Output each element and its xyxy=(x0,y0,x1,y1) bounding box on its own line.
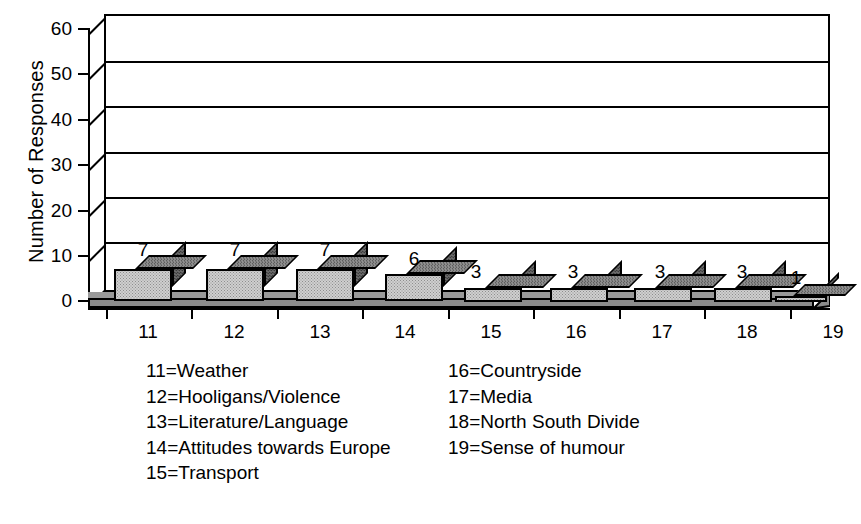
bar-18[interactable] xyxy=(714,288,772,302)
gridline-40 xyxy=(106,106,828,108)
x-tick-label-11: 11 xyxy=(118,322,178,342)
bar-value-13: 7 xyxy=(295,240,355,259)
plot-floor-front xyxy=(88,298,814,308)
x-tick-label-16: 16 xyxy=(546,322,606,342)
bar-front xyxy=(464,288,522,302)
y-tick-label-30: 30 xyxy=(20,155,72,174)
bar-17[interactable] xyxy=(634,288,692,302)
gridline-50 xyxy=(106,61,828,63)
y-tick-label-60: 60 xyxy=(20,19,72,38)
legend-item-16: 16=Countryside xyxy=(448,358,640,384)
x-tick-7 xyxy=(704,308,706,319)
axis-diagonal-30 xyxy=(88,154,105,171)
bar-value-16: 3 xyxy=(543,262,603,281)
bar-11[interactable] xyxy=(114,269,172,301)
y-tick-20 xyxy=(78,210,90,212)
legend-item-14: 14=Attitudes towards Europe xyxy=(146,435,391,461)
bar-19[interactable] xyxy=(775,296,827,302)
x-tick-label-14: 14 xyxy=(375,322,435,342)
y-tick-label-40: 40 xyxy=(20,110,72,129)
x-tick-4 xyxy=(448,308,450,319)
y-tick-label-50: 50 xyxy=(20,64,72,83)
y-tick-60 xyxy=(78,28,90,30)
y-tick-10 xyxy=(78,255,90,257)
bar-front xyxy=(714,288,772,302)
x-tick-8 xyxy=(790,308,792,319)
bar-value-11: 7 xyxy=(113,240,173,259)
x-tick-0 xyxy=(106,308,108,319)
bar-16[interactable] xyxy=(550,288,608,302)
bar-12[interactable] xyxy=(206,269,264,301)
bar-value-17: 3 xyxy=(630,262,690,281)
bar-value-12: 7 xyxy=(205,240,265,259)
x-tick-label-18: 18 xyxy=(717,322,777,342)
bar-front xyxy=(296,269,354,301)
axis-diagonal-20 xyxy=(88,200,105,217)
gridline-30 xyxy=(106,152,828,154)
x-tick-1 xyxy=(191,308,193,319)
legend: 11=Weather 12=Hooligans/Violence 13=Lite… xyxy=(0,358,845,524)
x-tick-6 xyxy=(619,308,621,319)
bar-front xyxy=(385,274,443,301)
bar-front xyxy=(550,288,608,302)
x-tick-label-12: 12 xyxy=(204,322,264,342)
bar-value-18: 3 xyxy=(712,262,772,281)
axis-diagonal-10 xyxy=(88,245,105,262)
bar-13[interactable] xyxy=(296,269,354,301)
x-tick-label-17: 17 xyxy=(632,322,692,342)
bar-value-19: 1 xyxy=(766,268,826,287)
axis-diagonal-60 xyxy=(88,18,105,35)
legend-column-right: 16=Countryside 17=Media 18=North South D… xyxy=(448,358,640,460)
legend-item-17: 17=Media xyxy=(448,384,640,410)
bar-front xyxy=(206,269,264,301)
axis-diagonal-40 xyxy=(88,109,105,126)
x-axis-line xyxy=(88,308,830,310)
gridline-20 xyxy=(106,197,828,199)
bar-front xyxy=(114,269,172,301)
y-tick-30 xyxy=(78,164,90,166)
legend-item-18: 18=North South Divide xyxy=(448,409,640,435)
legend-item-11: 11=Weather xyxy=(146,358,391,384)
bar-front xyxy=(775,296,827,302)
bar-front xyxy=(634,288,692,302)
x-tick-label-13: 13 xyxy=(290,322,350,342)
y-tick-50 xyxy=(78,73,90,75)
bar-15[interactable] xyxy=(464,288,522,302)
bar-value-14: 6 xyxy=(384,249,444,268)
legend-item-13: 13=Literature/Language xyxy=(146,409,391,435)
x-tick-3 xyxy=(362,308,364,319)
y-tick-label-10: 10 xyxy=(20,246,72,265)
bar-value-15: 3 xyxy=(446,262,506,281)
x-tick-label-19: 19 xyxy=(803,322,861,342)
bar-14[interactable] xyxy=(385,274,443,301)
legend-item-12: 12=Hooligans/Violence xyxy=(146,384,391,410)
x-tick-5 xyxy=(533,308,535,319)
x-tick-label-15: 15 xyxy=(461,322,521,342)
y-tick-40 xyxy=(78,119,90,121)
axis-diagonal-50 xyxy=(88,63,105,80)
legend-item-15: 15=Transport xyxy=(146,460,391,486)
y-tick-label-0: 0 xyxy=(20,291,72,310)
x-tick-2 xyxy=(277,308,279,319)
legend-column-left: 11=Weather 12=Hooligans/Violence 13=Lite… xyxy=(146,358,391,486)
y-tick-label-20: 20 xyxy=(20,201,72,220)
bar-chart: 60 50 40 30 20 10 0 7 xyxy=(0,0,845,345)
legend-item-19: 19=Sense of humour xyxy=(448,435,640,461)
